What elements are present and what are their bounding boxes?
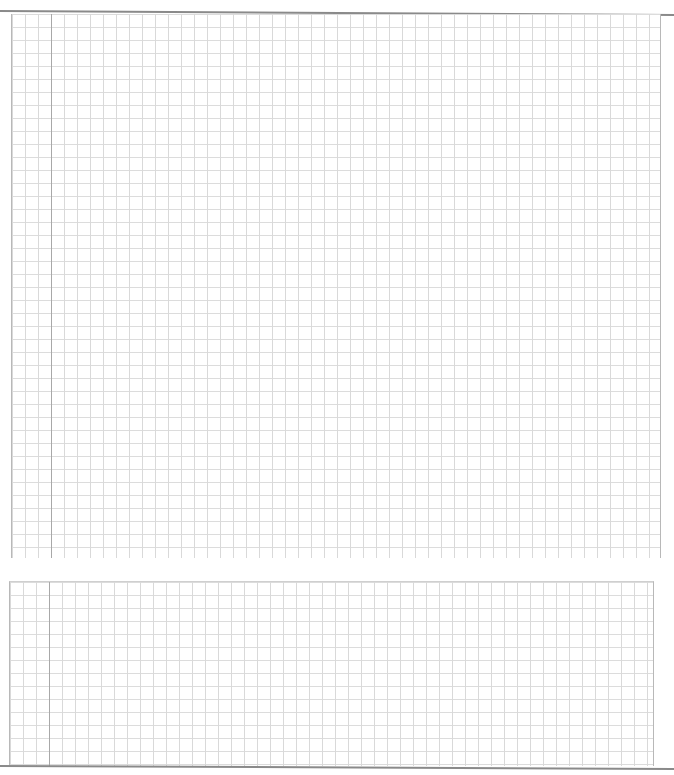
left-margin-line bbox=[49, 582, 50, 766]
upper-graph-grid bbox=[11, 14, 661, 558]
left-margin-line bbox=[51, 14, 52, 558]
lower-graph-grid bbox=[9, 581, 654, 766]
